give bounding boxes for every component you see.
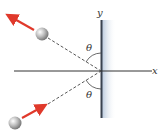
incoming-velocity-arrow (22, 107, 42, 118)
angle-arc-bottom (86, 80, 101, 89)
angle-arc-top (86, 53, 101, 62)
wall (102, 20, 117, 118)
theta-label-top: θ (86, 42, 92, 53)
outgoing-velocity-arrow (11, 17, 34, 30)
incoming-trajectory (48, 71, 101, 104)
outgoing-ball (36, 28, 49, 41)
x-axis-label: x (152, 65, 158, 76)
theta-label-bottom: θ (86, 89, 92, 100)
incoming-ball (9, 117, 22, 130)
y-axis-label: y (96, 7, 103, 18)
outgoing-trajectory (48, 38, 101, 71)
collision-diagram: x y θ θ (0, 0, 159, 140)
